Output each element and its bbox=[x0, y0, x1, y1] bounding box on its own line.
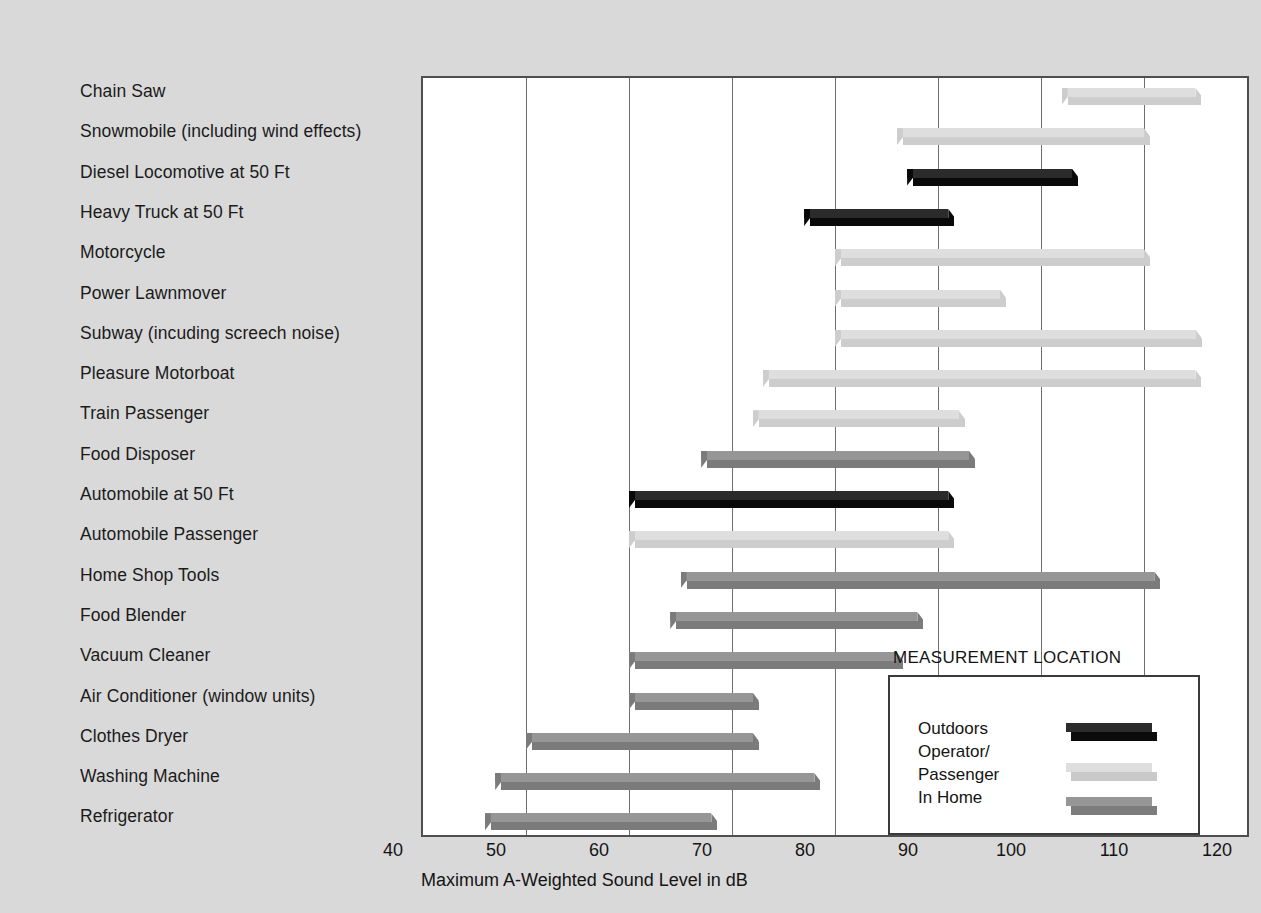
bar-range bbox=[526, 733, 753, 750]
bar-top-face bbox=[897, 128, 1144, 137]
category-label: Refrigerator bbox=[80, 806, 174, 827]
bar-top-face bbox=[485, 813, 712, 822]
x-tick-label: 110 bbox=[1100, 840, 1129, 861]
bar-top-face bbox=[629, 531, 948, 540]
bar-right-bevel bbox=[1195, 370, 1201, 387]
bar-top-face bbox=[670, 612, 917, 621]
bar-top-face bbox=[835, 290, 1000, 299]
gridline-60 bbox=[629, 78, 630, 835]
legend-label-operator-line1: Operator/ bbox=[918, 742, 990, 761]
bar-front-face bbox=[635, 540, 954, 548]
bar-front-face bbox=[635, 661, 903, 669]
legend-item-in-home: In Home bbox=[918, 786, 982, 809]
bar-range bbox=[897, 128, 1144, 145]
bar-right-bevel bbox=[1195, 88, 1201, 105]
bar-front-face bbox=[903, 137, 1150, 145]
bar-top-face bbox=[753, 410, 959, 419]
x-tick-label: 90 bbox=[898, 840, 918, 861]
category-label: Chain Saw bbox=[80, 81, 166, 102]
category-label: Snowmobile (including wind effects) bbox=[80, 121, 361, 142]
bar-right-bevel bbox=[711, 813, 717, 830]
bar-front-face bbox=[501, 782, 820, 790]
bar-front-face bbox=[759, 419, 965, 427]
bar-front-face bbox=[841, 339, 1202, 347]
legend-swatch-top bbox=[1066, 723, 1152, 732]
bar-front-face bbox=[707, 460, 975, 468]
legend-label-in-home: In Home bbox=[918, 786, 982, 809]
bar-front-face bbox=[635, 500, 954, 508]
chart-panel: Chain SawSnowmobile (including wind effe… bbox=[28, 28, 1233, 885]
bar-front-face bbox=[913, 178, 1078, 186]
bar-range bbox=[681, 572, 1155, 589]
category-label: Diesel Locomotive at 50 Ft bbox=[80, 162, 290, 183]
bar-right-bevel bbox=[1144, 249, 1150, 266]
category-label: Pleasure Motorboat bbox=[80, 363, 235, 384]
bar-range bbox=[485, 813, 712, 830]
bar-right-bevel bbox=[948, 491, 954, 508]
bar-top-face bbox=[681, 572, 1155, 581]
bar-range bbox=[629, 491, 948, 508]
category-label: Food Blender bbox=[80, 605, 186, 626]
legend-swatch-front bbox=[1071, 772, 1157, 781]
x-axis-title: Maximum A-Weighted Sound Level in dB bbox=[421, 870, 748, 891]
bar-range bbox=[495, 773, 814, 790]
legend-swatch bbox=[1066, 797, 1152, 815]
plot-area: MEASUREMENT LOCATION Outdoors Operator/ … bbox=[421, 76, 1249, 837]
category-label: Vacuum Cleaner bbox=[80, 645, 210, 666]
bar-top-face bbox=[835, 249, 1144, 258]
bar-range bbox=[701, 451, 969, 468]
bar-front-face bbox=[769, 379, 1202, 387]
bar-top-face bbox=[629, 652, 897, 661]
bar-top-face bbox=[495, 773, 814, 782]
bar-front-face bbox=[687, 581, 1161, 589]
x-tick-label: 50 bbox=[486, 840, 506, 861]
bar-front-face bbox=[491, 822, 718, 830]
bar-front-face bbox=[810, 218, 954, 226]
legend-label-operator-passenger: Operator/ Passenger bbox=[918, 740, 999, 786]
bar-right-bevel bbox=[1196, 330, 1202, 347]
bar-top-face bbox=[629, 693, 753, 702]
bar-front-face bbox=[532, 742, 759, 750]
x-tick-label: 40 bbox=[383, 840, 403, 861]
bar-range bbox=[629, 531, 948, 548]
bar-range bbox=[1062, 88, 1196, 105]
bar-right-bevel bbox=[948, 209, 954, 226]
bar-front-face bbox=[841, 299, 1006, 307]
bar-range bbox=[763, 370, 1196, 387]
category-label: Heavy Truck at 50 Ft bbox=[80, 202, 243, 223]
legend-item-outdoors: Outdoors bbox=[918, 717, 988, 740]
bar-right-bevel bbox=[1144, 128, 1150, 145]
bar-right-bevel bbox=[948, 531, 954, 548]
legend-swatch-front bbox=[1071, 806, 1157, 815]
legend-swatch bbox=[1066, 763, 1152, 781]
bar-range bbox=[670, 612, 917, 629]
legend-label-outdoors: Outdoors bbox=[918, 717, 988, 740]
category-label: Washing Machine bbox=[80, 766, 220, 787]
category-label: Air Conditioner (window units) bbox=[80, 686, 315, 707]
category-label: Motorcycle bbox=[80, 242, 166, 263]
category-label: Clothes Dryer bbox=[80, 726, 188, 747]
x-tick-label: 100 bbox=[996, 840, 1026, 861]
bar-top-face bbox=[907, 169, 1072, 178]
category-label: Power Lawnmover bbox=[80, 283, 226, 304]
bar-right-bevel bbox=[753, 693, 759, 710]
bar-right-bevel bbox=[1072, 169, 1078, 186]
bar-right-bevel bbox=[1154, 572, 1160, 589]
legend-swatch-top bbox=[1066, 797, 1152, 806]
x-tick-label: 80 bbox=[795, 840, 815, 861]
bar-top-face bbox=[763, 370, 1196, 379]
x-tick-label: 120 bbox=[1202, 840, 1232, 861]
x-tick-label: 70 bbox=[692, 840, 712, 861]
bar-range bbox=[629, 652, 897, 669]
bar-front-face bbox=[841, 258, 1150, 266]
x-tick-label: 60 bbox=[589, 840, 609, 861]
bar-range bbox=[835, 290, 1000, 307]
bar-range bbox=[629, 693, 753, 710]
legend-title: MEASUREMENT LOCATION bbox=[893, 648, 1121, 668]
bar-top-face bbox=[526, 733, 753, 742]
gridline-50 bbox=[526, 78, 527, 835]
legend-box: Outdoors Operator/ Passenger In Home bbox=[888, 675, 1200, 835]
bar-range bbox=[753, 410, 959, 427]
bar-right-bevel bbox=[959, 410, 965, 427]
category-label: Subway (incuding screech noise) bbox=[80, 323, 340, 344]
